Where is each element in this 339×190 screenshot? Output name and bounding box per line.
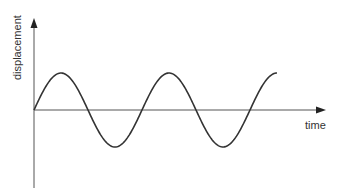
y-axis-arrow-icon <box>31 18 38 28</box>
y-axis-label: displacement <box>11 15 23 80</box>
x-axis-arrow-icon <box>316 107 326 114</box>
displacement-time-diagram: displacement time <box>0 0 339 190</box>
x-axis-label: time <box>305 119 326 131</box>
